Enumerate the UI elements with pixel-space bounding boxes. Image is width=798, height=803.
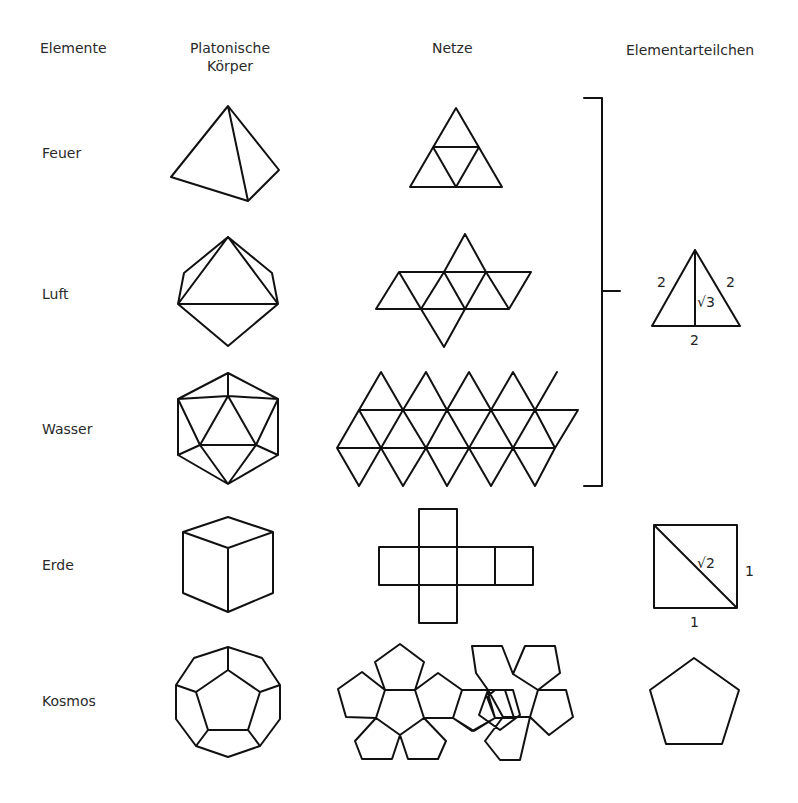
icosahedron-net-icon (337, 372, 578, 486)
pentagon-particle (650, 658, 739, 744)
dodecahedron-icon (176, 647, 280, 757)
triangle-side-right-label: 2 (726, 274, 735, 290)
cube-icon (183, 517, 273, 612)
octahedron-icon (178, 237, 278, 346)
tetrahedron-icon (171, 106, 279, 201)
triangle-height-label: √3 (697, 294, 715, 310)
octahedron-net-icon (376, 234, 531, 347)
tetrahedron-net-icon (410, 108, 502, 187)
cube-net-icon (379, 509, 533, 623)
square-diagonal-label: √2 (697, 555, 715, 571)
dodecahedron-net-icon (338, 644, 573, 760)
icosahedron-icon (178, 373, 278, 484)
grouping-bracket (584, 98, 620, 486)
square-base-label: 1 (690, 614, 699, 630)
square-side-label: 1 (745, 563, 754, 579)
square-particle: √2 1 1 (654, 525, 754, 630)
triangle-side-left-label: 2 (657, 274, 666, 290)
equilateral-triangle-particle: 2 2 √3 2 (652, 250, 740, 348)
triangle-base-label: 2 (690, 332, 699, 348)
